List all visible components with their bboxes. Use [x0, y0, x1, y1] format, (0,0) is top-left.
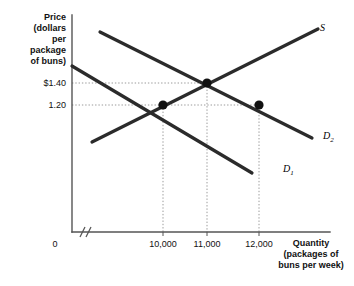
x-tick-label-10000: 10,000 [138, 239, 188, 250]
demand-curve-1-label: D1 [283, 163, 294, 177]
y-axis-title: Price (dollars per package of buns) [8, 12, 66, 67]
demand-curve-2-label-sub: 2 [330, 136, 334, 144]
demand-curve-1-label-sub: 1 [290, 169, 294, 177]
marker-equilibrium-new [202, 78, 211, 87]
x-axis-title: Quantity (packages of buns per week) [268, 238, 354, 271]
supply-curve-label: S [320, 22, 325, 33]
origin-label: 0 [45, 239, 65, 250]
marker-point-d2-12000 [254, 100, 263, 109]
demand-curve-2-label: D2 [323, 130, 334, 144]
y-tick-label-120: 1.20 [14, 100, 66, 111]
demand-curve-1 [72, 66, 252, 173]
y-tick-label-140: $1.40 [14, 78, 66, 89]
x-tick-label-11000: 11,000 [182, 239, 232, 250]
supply-demand-chart: Price (dollars per package of buns) $1.4… [0, 0, 354, 286]
axes-lines [72, 15, 330, 232]
marker-equilibrium-initial [158, 100, 167, 109]
